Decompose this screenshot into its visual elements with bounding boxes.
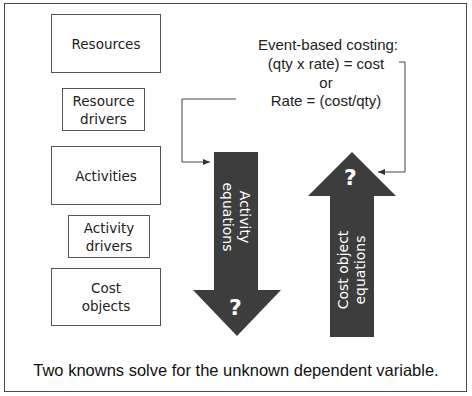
activity-equations-label: Activity equations xyxy=(219,167,253,267)
question-mark-icon: ? xyxy=(344,165,357,190)
connector-to-cost-object-arrow xyxy=(378,62,405,172)
cost-object-equations-label: Cost object equations xyxy=(335,215,369,325)
footer-caption: Two knowns solve for the unknown depende… xyxy=(0,361,472,380)
question-mark-icon: ? xyxy=(229,295,242,320)
